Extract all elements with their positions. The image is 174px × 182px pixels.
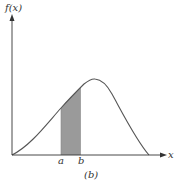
- bound-a-label: a: [58, 155, 64, 166]
- y-axis-label: f(x): [4, 2, 22, 13]
- x-axis-label: x: [168, 149, 174, 160]
- bound-b-label: b: [78, 155, 84, 166]
- y-axis-arrow-icon: [10, 14, 15, 21]
- x-axis-arrow-icon: [160, 153, 167, 158]
- pdf-diagram: f(x) x a b (b): [0, 0, 174, 182]
- figure-caption: (b): [84, 169, 98, 180]
